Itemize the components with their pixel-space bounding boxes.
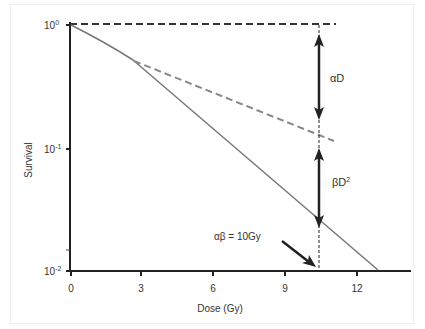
alpha-beta-ratio-label: αβ = 10Gy — [214, 231, 261, 242]
y-axis-title: Survival — [23, 142, 34, 178]
x-axis-title: Dose (Gy) — [197, 303, 243, 314]
x-tick-label: 9 — [282, 283, 288, 294]
x-tick-label: 0 — [68, 283, 74, 294]
y-tick-label: 10-2 — [44, 265, 61, 277]
y-tick-label: 10-1 — [44, 143, 61, 155]
y-tick-label: 100 — [44, 19, 59, 31]
x-tick-label: 3 — [138, 283, 144, 294]
alpha-d-label: αD — [330, 72, 344, 84]
linear-extension-dashed-line — [134, 61, 334, 141]
pointer-arrow — [282, 241, 309, 262]
x-tick-label: 12 — [351, 283, 363, 294]
beta-d2-label: βD2 — [332, 176, 350, 188]
survival-chart: 100 10-1 10-2 0 3 6 9 12 Dose (Gy) Survi… — [0, 0, 425, 329]
x-tick-label: 6 — [210, 283, 216, 294]
